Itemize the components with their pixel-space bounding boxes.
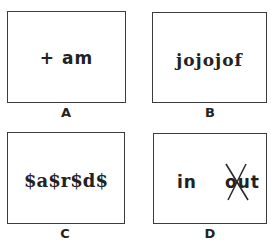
panel-b-label: B: [200, 105, 220, 120]
panel-d: in out: [153, 133, 267, 224]
panel-c-label: C: [55, 226, 75, 241]
panel-a: + am: [7, 11, 126, 103]
panel-d-text-in: in: [177, 172, 197, 192]
panel-a-label: A: [56, 105, 76, 120]
panel-b: jojojof: [152, 12, 267, 103]
panel-a-text: + am: [8, 48, 125, 68]
panel-c: $a$r$d$: [7, 132, 125, 224]
cross-out-x-icon: [224, 162, 250, 202]
panel-d-label: D: [200, 226, 220, 241]
panel-c-text: $a$r$d$: [8, 170, 124, 191]
panel-b-text: jojojof: [153, 50, 266, 70]
